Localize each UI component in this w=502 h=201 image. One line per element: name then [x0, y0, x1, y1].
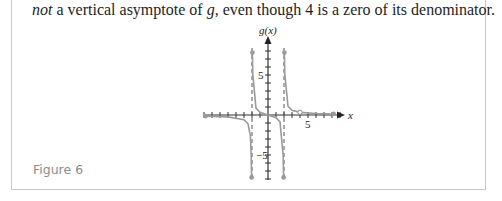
- curve-end-marker: [204, 115, 207, 118]
- y-tick-label-neg5: −5: [256, 149, 268, 161]
- curve-end-marker: [282, 176, 285, 179]
- figure-caption: Figure 6: [33, 162, 83, 177]
- curve-end-marker: [251, 51, 254, 54]
- y-tick-label-5: 5: [258, 69, 264, 81]
- hole-marker: [298, 110, 302, 114]
- x-axis-arrow-icon: [337, 112, 345, 119]
- curve-branch-0: [206, 116, 252, 177]
- x-axis-label: x: [347, 109, 353, 121]
- curve-end-marker: [250, 176, 253, 179]
- x-tick-label-5: 5: [305, 118, 311, 130]
- y-axis-label: g(x): [259, 24, 277, 37]
- curve-end-marker: [283, 51, 286, 54]
- curve-branch-2: [284, 53, 333, 114]
- y-axis-arrow-icon: [265, 36, 272, 44]
- curve-end-marker: [332, 112, 335, 115]
